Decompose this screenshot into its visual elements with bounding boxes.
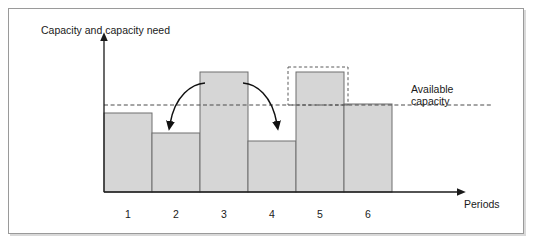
x-tick-label-5: 5	[308, 208, 332, 220]
bar-period-2	[152, 133, 200, 192]
figure-root: Capacity and capacity need Periods Avail…	[0, 0, 534, 245]
x-axis-title: Periods	[464, 198, 500, 210]
x-tick-label-1: 1	[116, 208, 140, 220]
bars-group	[104, 72, 392, 192]
x-tick-label-6: 6	[356, 208, 380, 220]
available-capacity-label-line1: Available	[411, 83, 453, 95]
x-tick-label-2: 2	[164, 208, 188, 220]
bar-period-1	[104, 113, 152, 192]
bar-period-5	[296, 72, 344, 192]
x-tick-label-3: 3	[212, 208, 236, 220]
available-capacity-label: Availablecapacity	[411, 83, 491, 107]
bar-period-6	[344, 104, 392, 192]
bar-period-3	[200, 72, 248, 192]
available-capacity-label-line2: capacity	[411, 95, 450, 107]
x-tick-label-4: 4	[260, 208, 284, 220]
bar-period-4	[248, 141, 296, 192]
y-axis-title: Capacity and capacity need	[41, 24, 170, 36]
